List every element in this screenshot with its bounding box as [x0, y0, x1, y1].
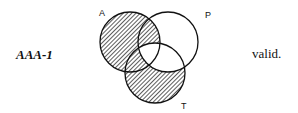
circle-p-label: P: [205, 10, 211, 20]
venn-diagram: A P T: [0, 0, 298, 113]
circle-t-label: T: [181, 101, 187, 111]
circle-a-label: A: [99, 8, 105, 18]
